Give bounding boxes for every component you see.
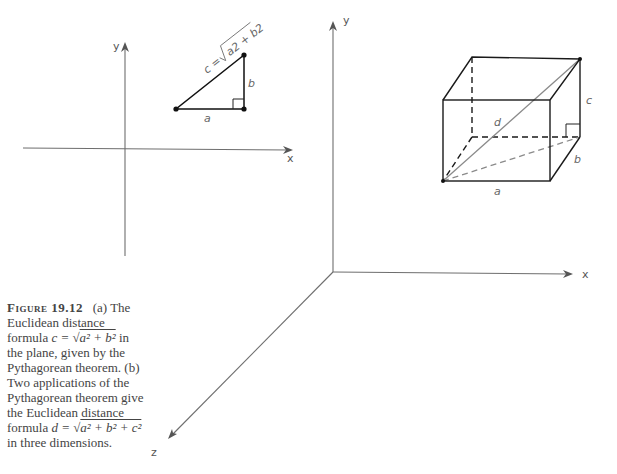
figure-number: Figure 19.12 xyxy=(7,300,83,315)
x-axis-label-3d: x xyxy=(582,268,589,281)
x-axis-label-2d: x xyxy=(287,152,294,165)
front-face xyxy=(443,100,550,181)
formula-d-radicand: a² + b² + c² xyxy=(80,420,141,435)
edge-label-d: d xyxy=(494,116,502,129)
formula-d-lhs: d = xyxy=(51,420,70,435)
space-diagonal xyxy=(443,59,580,181)
x-axis-3d xyxy=(333,272,569,274)
formula-c-sqrt: √a² + b² xyxy=(72,330,115,345)
figure-caption: Figure 19.12 (a) The Euclidean distance … xyxy=(7,300,147,450)
x-axis-2d xyxy=(23,148,290,150)
formula-c-lhs: c = xyxy=(51,330,69,345)
y-axis-label-2d: y xyxy=(113,40,120,53)
hypotenuse-formula: c = a2 + b2 xyxy=(198,18,266,76)
z-axis-label-3d: z xyxy=(151,446,157,459)
panel-a: x y a b c = a2 + b2 xyxy=(23,18,294,256)
formula-c-radicand: a² + b² xyxy=(80,330,116,345)
box: a b c d xyxy=(441,57,592,198)
side-label-b: b xyxy=(248,77,255,90)
top-face-edges xyxy=(443,57,580,100)
panel-b: y x z a b c d xyxy=(151,14,592,459)
floor-diagonal xyxy=(443,137,580,181)
edge-label-b: b xyxy=(574,153,581,166)
side-label-a: a xyxy=(204,112,211,125)
point-left xyxy=(173,106,178,111)
point-corner xyxy=(241,106,246,111)
point-top xyxy=(241,52,246,57)
z-axis-3d xyxy=(171,272,333,436)
edge-label-c: c xyxy=(586,94,592,107)
y-axis-label-3d: y xyxy=(343,14,350,27)
corner-origin xyxy=(441,179,445,183)
z-axis-3d-arrow-icon xyxy=(168,429,177,439)
formula-d-sqrt: √a² + b² + c² xyxy=(73,420,141,435)
right-angle-marker-3d xyxy=(566,124,580,137)
caption-part-b-suffix: in three dimensions. xyxy=(7,435,112,450)
edge-label-a: a xyxy=(494,185,501,198)
corner-far xyxy=(578,57,582,61)
